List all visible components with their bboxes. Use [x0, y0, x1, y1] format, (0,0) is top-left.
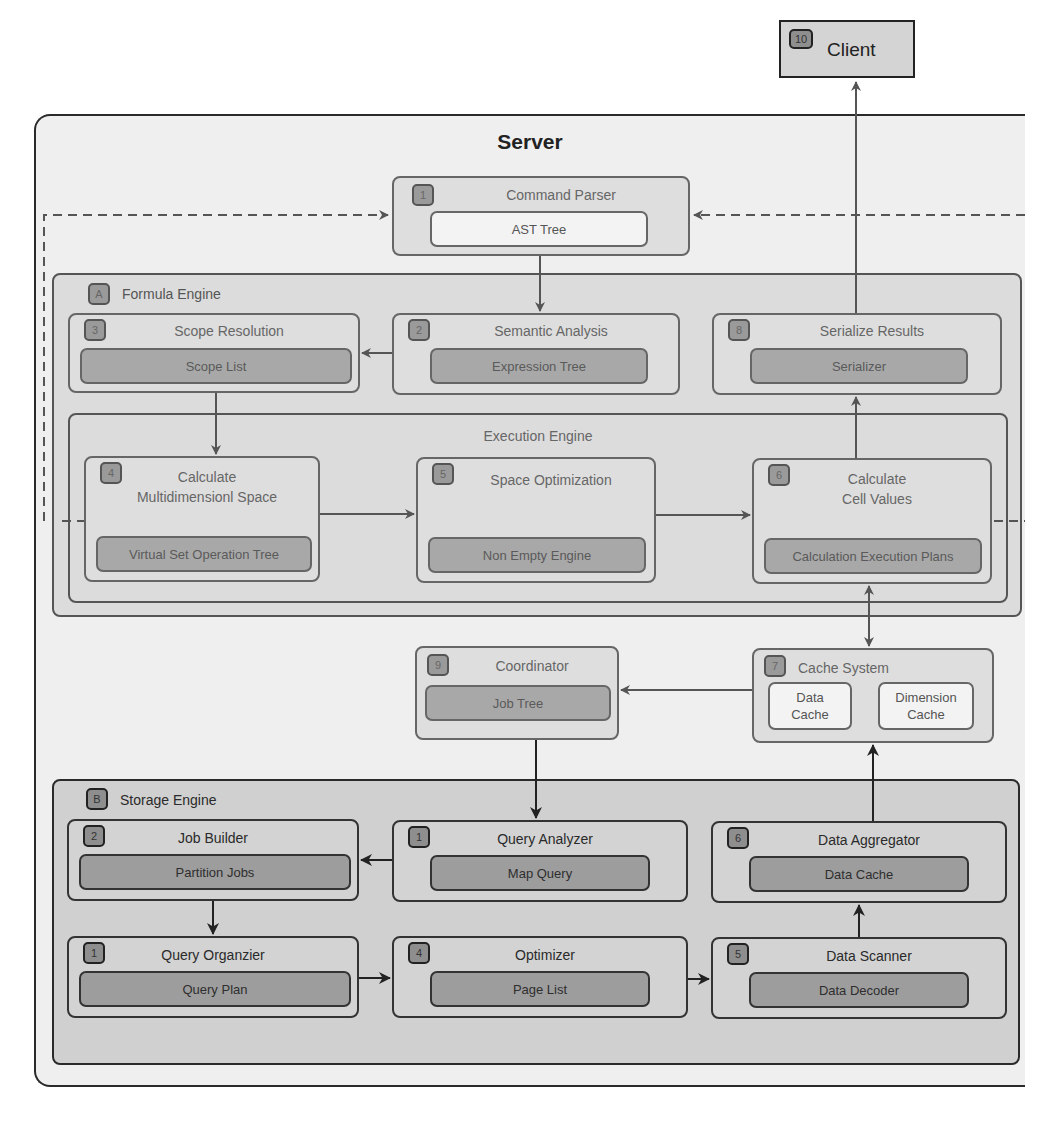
- partition-jobs: Partition Jobs: [79, 854, 351, 890]
- optimizer-box: 4 Optimizer Page List: [392, 936, 688, 1018]
- dimension-cache: Dimension Cache: [878, 682, 974, 730]
- semantic-analysis-title: Semantic Analysis: [424, 322, 678, 340]
- dim-cache-line2: Cache: [907, 706, 945, 723]
- calculation-execution-plans: Calculation Execution Plans: [764, 538, 982, 574]
- step-badge: 7: [764, 655, 786, 677]
- data-cache-line2: Cache: [791, 706, 829, 723]
- optimizer-title: Optimizer: [404, 946, 686, 964]
- virtual-set-operation-tree: Virtual Set Operation Tree: [96, 536, 312, 572]
- cache-system-box: 7 Cache System Data Cache Dimension Cach…: [752, 648, 994, 743]
- job-tree: Job Tree: [425, 685, 611, 721]
- calc-cells-box: 6 Calculate Cell Values Calculation Exec…: [752, 458, 992, 584]
- formula-engine-label: Formula Engine: [122, 286, 221, 302]
- section-badge: B: [86, 788, 108, 810]
- page-list: Page List: [430, 971, 650, 1007]
- cache-system-title: Cache System: [798, 659, 889, 677]
- data-cache-line1: Data: [796, 689, 823, 706]
- coordinator-title: Coordinator: [447, 657, 617, 675]
- job-builder-box: 2 Job Builder Partition Jobs: [67, 819, 359, 901]
- serialize-results-box: 8 Serialize Results Serializer: [712, 313, 1002, 395]
- dim-cache-line1: Dimension: [895, 689, 956, 706]
- scope-resolution-box: 3 Scope Resolution Scope List: [68, 313, 360, 393]
- query-organizer-title: Query Organzier: [69, 946, 357, 964]
- job-builder-title: Job Builder: [69, 829, 357, 847]
- step-badge: 10: [789, 29, 813, 49]
- query-plan: Query Plan: [79, 971, 351, 1007]
- scope-resolution-title: Scope Resolution: [100, 322, 358, 340]
- data-cache-storage: Data Cache: [749, 856, 969, 892]
- query-organizer-box: 1 Query Organzier Query Plan: [67, 936, 359, 1018]
- ast-tree: AST Tree: [430, 211, 648, 247]
- expression-tree: Expression Tree: [430, 348, 648, 384]
- data-scanner-title: Data Scanner: [733, 947, 1005, 965]
- semantic-analysis-box: 2 Semantic Analysis Expression Tree: [392, 313, 680, 395]
- query-analyzer-title: Query Analyzer: [404, 830, 686, 848]
- serialize-results-title: Serialize Results: [744, 322, 1000, 340]
- client-label: Client: [827, 39, 876, 61]
- command-parser-box: 1 Command Parser AST Tree: [392, 176, 690, 256]
- execution-engine-label: Execution Engine: [70, 427, 1006, 445]
- calc-space-title-1: Calculate: [96, 468, 318, 486]
- client-node: 10 Client: [779, 20, 915, 78]
- space-optimization-box: 5 Space Optimization Non Empty Engine: [416, 457, 656, 583]
- calc-cells-title-1: Calculate: [764, 470, 990, 488]
- calc-cells-title-2: Cell Values: [764, 490, 990, 508]
- data-scanner-box: 5 Data Scanner Data Decoder: [711, 937, 1007, 1019]
- serializer: Serializer: [750, 348, 968, 384]
- server-title: Server: [470, 130, 590, 154]
- calc-space-title-2: Multidimensionl Space: [96, 488, 318, 506]
- section-badge: A: [88, 283, 110, 305]
- data-decoder: Data Decoder: [749, 972, 969, 1008]
- storage-engine-label: Storage Engine: [120, 792, 217, 808]
- space-optimization-title: Space Optimization: [448, 471, 654, 489]
- calc-space-box: 4 Calculate Multidimensionl Space Virtua…: [84, 456, 320, 582]
- step-badge: 9: [427, 654, 449, 676]
- coordinator-box: 9 Coordinator Job Tree: [415, 646, 619, 740]
- query-analyzer-box: 1 Query Analyzer Map Query: [392, 820, 688, 902]
- step-badge: 1: [412, 184, 434, 206]
- command-parser-title: Command Parser: [434, 186, 688, 204]
- scope-list: Scope List: [80, 348, 352, 384]
- map-query: Map Query: [430, 855, 650, 891]
- data-aggregator-title: Data Aggregator: [733, 831, 1005, 849]
- non-empty-engine: Non Empty Engine: [428, 537, 646, 573]
- data-aggregator-box: 6 Data Aggregator Data Cache: [711, 821, 1007, 903]
- data-cache: Data Cache: [768, 682, 852, 730]
